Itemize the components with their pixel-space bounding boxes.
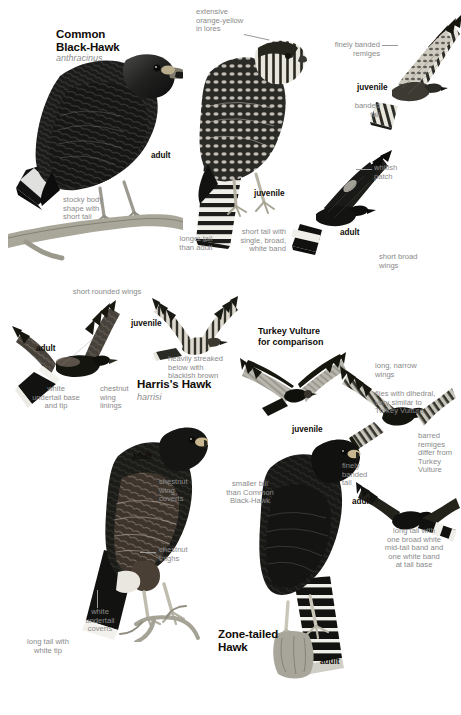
note-barred-remiges: barred remiges differ from Turkey Vultur… [418,432,461,475]
label-hh-flight-adult: adult [36,344,56,353]
label-cbh-perched-juvenile: juvenile [254,189,285,198]
note-chestnut-wing-coverts: chestnut wing coverts [159,478,215,504]
note-chestnut-thighs: chestnut thighs [159,546,215,563]
note-banded-tail: banded tail [330,102,380,119]
leader-line-thighs [140,552,156,553]
label-cbh-flight-adult: adult [340,228,360,237]
label-hh-flight-juvenile: juvenile [131,319,162,328]
scientific-name-common-black-hawk: anthracinus [56,53,103,63]
note-short-tail-band: short tail with single, broad, white ban… [190,228,286,254]
note-flies-dihedral: flies with dihedral, very similar to Tur… [375,390,455,416]
leader-line-whitish-patch [356,169,372,170]
note-finely-banded-tail: finely banded tail [342,462,386,488]
note-long-tail-bands: long tail with one broad white mid-tail … [366,527,461,570]
leader-line-undertail-coverts [97,590,98,608]
note-white-undertail-coverts: white undertail coverts [72,608,128,634]
scientific-name-harriss-hawk: harrisi [137,392,162,402]
note-extensive-lores: extensive orange-yellow in lores [196,8,276,34]
illustration-common-black-hawk-flight-juvenile [368,10,461,130]
species-name-common-black-hawk: Common Black-Hawk [56,28,166,53]
label-turkey-vulture-comparison: Turkey Vulture for comparison [258,326,364,347]
note-short-broad-wings: short broad wings [379,253,443,270]
label-zth-flight-adult-male: adult ♂ [352,497,380,506]
note-stocky-body: stocky body shape with short tail [63,196,145,222]
label-cbh-perched-adult: adult [151,151,171,160]
species-name-zone-tailed-hawk: Zone-tailed Hawk [218,628,328,653]
illustration-turkey-vulture-comparison [240,348,348,426]
note-smaller-bill: smaller bill than Common Black-Hawk [212,480,288,506]
note-finely-banded-remiges: finely banded remiges [318,41,380,58]
leader-line-remiges [382,45,398,46]
note-long-tail-white-tip: long tail with white tip [8,638,88,655]
note-short-rounded-wings: short rounded wings [52,288,162,297]
illustration-common-black-hawk-perched-juvenile [172,14,307,249]
note-white-undertail-base: white undertail base and tip [16,385,96,411]
label-hh-perched-adult: adult [132,452,152,461]
note-whitish-patch: whitish patch [374,164,426,181]
label-zth-perched-adult: adult [320,657,340,666]
note-long-narrow-wings: long, narrow wings [375,362,439,379]
field-guide-plate: Common Black-Hawk anthracinus extensive … [0,0,461,715]
label-cbh-flight-juvenile: juvenile [357,83,388,92]
label-zth-flight-juvenile: juvenile [292,425,323,434]
species-name-harriss-hawk: Harris's Hawk [137,378,247,391]
note-heavily-streaked: heavily streaked below with blackish bro… [168,355,250,381]
